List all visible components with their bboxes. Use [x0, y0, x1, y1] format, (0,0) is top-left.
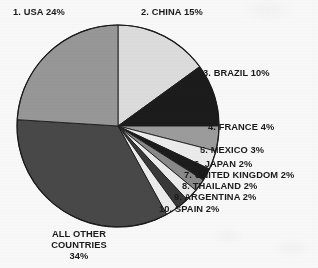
slice-label-thailand: 8. THAILAND 2%	[182, 181, 257, 192]
slice-label-france: 4. FRANCE 4%	[208, 122, 274, 133]
slice-label-usa: 1. USA 24%	[13, 7, 65, 18]
slice-label-united-kingdom: 7. UNITED KINGDOM 2%	[184, 170, 294, 181]
slice-label-brazil: 3. BRAZIL 10%	[203, 68, 270, 79]
slice-label-china: 2. CHINA 15%	[141, 7, 203, 18]
all-other-line-2: COUNTRIES	[51, 240, 107, 250]
slice-label-japan: 6. JAPAN 2%	[194, 159, 252, 170]
slice-label-spain: 10. SPAIN 2%	[159, 204, 219, 215]
slice-label-all-other-countries: ALL OTHER COUNTRIES 34%	[29, 229, 129, 262]
slice-label-argentina: 9. ARGENTINA 2%	[174, 192, 256, 203]
pie-slice-usa[interactable]: 1. USA 24%	[17, 25, 118, 126]
all-other-line-3: 34%	[70, 251, 89, 261]
all-other-line-1: ALL OTHER	[52, 229, 106, 239]
pie-chart-graphic: 2. CHINA 15%3. BRAZIL 10%4. FRANCE 4%5. …	[0, 0, 318, 268]
slice-label-mexico: 5. MEXICO 3%	[200, 145, 264, 156]
pie-chart-figure: 2. CHINA 15%3. BRAZIL 10%4. FRANCE 4%5. …	[0, 0, 318, 268]
